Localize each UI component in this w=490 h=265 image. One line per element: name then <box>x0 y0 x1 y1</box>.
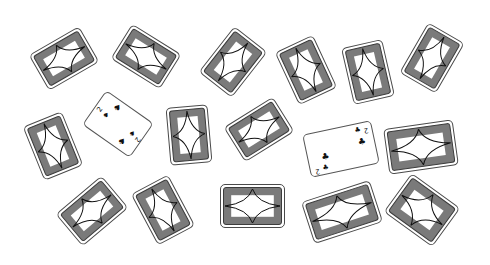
card-back-star-icon <box>389 179 455 242</box>
face-down-card[interactable] <box>56 176 129 247</box>
card-back-star-icon <box>405 28 459 88</box>
face-down-card[interactable] <box>399 22 464 93</box>
card-back-pattern <box>305 184 380 241</box>
card-back-pattern <box>388 177 456 243</box>
spade-icon: ♠ <box>101 111 110 120</box>
card-back-pattern <box>228 101 291 158</box>
card-rank: 2 <box>314 167 320 175</box>
club-icon: ♣ <box>354 127 362 135</box>
card-back-star-icon <box>61 181 123 240</box>
face-down-card[interactable] <box>220 184 285 228</box>
spade-icon: ♠ <box>111 102 123 114</box>
card-back-star-icon <box>170 109 208 162</box>
card-back-star-icon <box>306 185 378 239</box>
card-back-pattern <box>115 28 178 85</box>
club-icon: ♣ <box>322 164 330 172</box>
card-back-star-icon <box>224 188 281 224</box>
face-down-card[interactable] <box>224 97 295 163</box>
card-back-pattern <box>387 123 456 172</box>
face-down-card[interactable] <box>301 180 383 244</box>
card-back-pattern <box>33 30 96 86</box>
card-back-pattern <box>169 108 209 163</box>
face-down-card[interactable] <box>275 35 338 105</box>
card-rank: 2 <box>133 135 141 143</box>
spade-icon: ♠ <box>116 136 128 148</box>
face-down-card[interactable] <box>384 173 461 247</box>
card-back-pattern <box>27 115 80 177</box>
face-down-card[interactable] <box>341 39 395 105</box>
card-back-pattern <box>135 179 191 242</box>
face-down-card[interactable] <box>111 24 182 90</box>
card-back-star-icon <box>34 32 94 86</box>
face-down-card[interactable] <box>29 26 100 91</box>
face-down-card[interactable] <box>383 119 459 174</box>
face-down-card[interactable] <box>166 104 213 165</box>
card-back-star-icon <box>28 116 78 175</box>
card-back-star-icon <box>136 180 189 240</box>
card-back-star-icon <box>388 124 455 170</box>
card-back-pattern <box>60 180 125 242</box>
face-up-card-2-spades[interactable]: 2 ♠ ♠ ♠ ♠ 2 <box>82 90 154 158</box>
face-down-card[interactable] <box>199 26 268 98</box>
card-back-star-icon <box>116 29 176 83</box>
face-up-card-2-clubs[interactable]: 2 ♣ ♣ ♣ ♣ 2 <box>302 120 380 178</box>
card-back-star-icon <box>204 32 262 92</box>
face-down-card[interactable] <box>23 111 84 181</box>
card-back-pattern <box>403 26 460 89</box>
card-back-pattern <box>345 43 392 102</box>
card-back-pattern <box>279 39 334 101</box>
card-back-star-icon <box>229 102 289 156</box>
card-rank: 2 <box>363 126 369 134</box>
club-icon: ♣ <box>357 137 367 147</box>
card-table: 2 ♠ ♠ ♠ ♠ 2 2 ♣ ♣ ♣ ♣ 2 <box>0 0 490 265</box>
card-back-pattern <box>203 30 263 93</box>
card-back-pattern <box>223 187 282 225</box>
face-down-card[interactable] <box>131 175 195 246</box>
card-back-star-icon <box>346 44 390 100</box>
club-icon: ♣ <box>320 152 330 162</box>
card-back-star-icon <box>280 40 332 100</box>
